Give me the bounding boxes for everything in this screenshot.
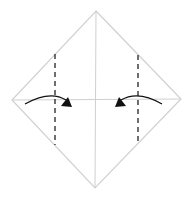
origami-diagram-canvas xyxy=(0,0,188,199)
origami-diagram xyxy=(0,0,188,199)
